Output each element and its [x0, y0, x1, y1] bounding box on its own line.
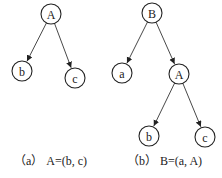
node-a-c: c [65, 68, 85, 88]
svg-text:b: b [19, 65, 25, 79]
edge-a-A-c [55, 23, 72, 67]
edge-b-A-c [183, 83, 201, 127]
edge-a-A-b [27, 23, 46, 61]
node-b-B: B [142, 3, 162, 23]
node-b-b: b [139, 126, 159, 146]
svg-text:A: A [175, 68, 184, 82]
svg-text:B: B [148, 7, 156, 21]
node-b-c: c [195, 127, 215, 147]
node-a-b: b [12, 61, 32, 81]
svg-text:c: c [72, 72, 77, 86]
svg-text:A: A [47, 8, 56, 22]
node-a-A: A [41, 4, 61, 24]
caption-a: （a） A=(b, c) [14, 151, 87, 169]
svg-text:a: a [119, 67, 125, 81]
svg-text:c: c [202, 131, 207, 145]
edge-b-B-A [156, 22, 175, 64]
caption-b: （b） B=(a, A) [127, 151, 202, 169]
edge-b-B-a [127, 22, 148, 63]
node-b-a: a [112, 63, 132, 83]
node-b-A: A [169, 64, 189, 84]
edge-b-A-b [154, 83, 175, 126]
svg-text:b: b [146, 130, 152, 144]
nodes: AbcBaAbc [12, 3, 215, 147]
